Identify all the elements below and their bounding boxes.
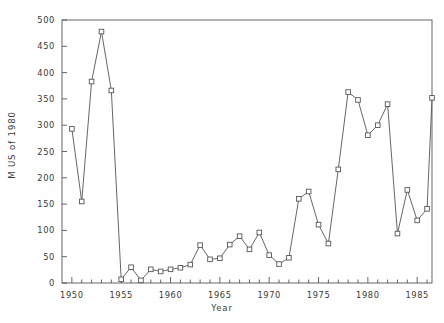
- data-point-marker: [257, 230, 262, 235]
- data-point-marker: [218, 256, 223, 261]
- data-point-marker: [158, 269, 163, 274]
- data-point-marker: [405, 188, 410, 193]
- x-axis-title: Year: [0, 303, 444, 313]
- axes-frame: [62, 20, 432, 283]
- x-tick-label: 1960: [159, 290, 183, 300]
- y-tick-label: 50: [43, 252, 55, 262]
- chart-figure: 050100150200250300350400450500 195019551…: [0, 0, 444, 323]
- data-point-marker: [70, 127, 75, 132]
- data-point-marker: [129, 265, 134, 270]
- data-point-marker: [198, 243, 203, 248]
- y-axis-title: M US of 1980: [7, 95, 17, 195]
- data-point-marker: [79, 199, 84, 204]
- data-point-marker: [99, 29, 104, 34]
- data-point-marker: [277, 262, 282, 267]
- data-point-marker: [316, 222, 321, 227]
- data-point-marker: [119, 277, 124, 282]
- data-point-marker: [366, 133, 371, 138]
- x-tick-label: 1975: [307, 290, 331, 300]
- data-point-marker: [415, 218, 420, 223]
- y-tick-label: 200: [37, 173, 55, 183]
- y-axis-ticks: 050100150200250300350400450500: [37, 15, 67, 288]
- data-point-marker: [395, 231, 400, 236]
- x-tick-label: 1980: [356, 290, 380, 300]
- line-chart-plot: 050100150200250300350400450500 195019551…: [0, 0, 444, 323]
- data-point-marker: [139, 278, 144, 283]
- data-point-marker: [326, 241, 331, 246]
- y-tick-label: 500: [37, 15, 55, 25]
- data-series-line: [72, 32, 432, 281]
- data-point-marker: [247, 247, 252, 252]
- y-tick-label: 0: [49, 278, 55, 288]
- y-tick-label: 150: [37, 199, 55, 209]
- data-point-marker: [168, 267, 173, 272]
- data-point-marker: [89, 79, 94, 84]
- data-point-marker: [430, 96, 435, 101]
- y-tick-label: 400: [37, 68, 55, 78]
- data-point-marker: [336, 167, 341, 172]
- data-point-marker: [287, 255, 292, 260]
- y-tick-label: 250: [37, 147, 55, 157]
- x-tick-label: 1970: [257, 290, 281, 300]
- data-point-marker: [346, 90, 351, 95]
- data-point-marker: [425, 207, 430, 212]
- y-tick-label: 100: [37, 225, 55, 235]
- y-tick-label: 300: [37, 120, 55, 130]
- data-point-marker: [149, 267, 154, 272]
- data-point-marker: [237, 234, 242, 239]
- data-point-marker: [306, 189, 311, 194]
- data-point-marker: [385, 102, 390, 107]
- data-point-marker: [297, 197, 302, 202]
- data-point-marker: [178, 265, 183, 270]
- data-point-marker: [109, 88, 114, 93]
- data-point-marker: [227, 242, 232, 247]
- y-tick-label: 450: [37, 41, 55, 51]
- data-point-marker: [375, 123, 380, 128]
- data-point-marker: [188, 262, 193, 267]
- x-tick-label: 1965: [208, 290, 232, 300]
- data-point-marker: [267, 253, 272, 258]
- x-tick-label: 1950: [60, 290, 84, 300]
- x-axis-ticks: 19501955196019651970197519801985: [60, 277, 429, 300]
- x-tick-label: 1955: [109, 290, 133, 300]
- x-tick-label: 1985: [405, 290, 429, 300]
- data-point-marker: [356, 98, 361, 103]
- data-point-marker: [208, 257, 213, 262]
- y-tick-label: 350: [37, 94, 55, 104]
